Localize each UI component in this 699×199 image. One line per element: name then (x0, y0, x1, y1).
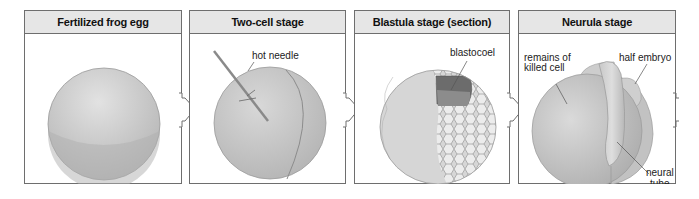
panel-title: Neurula stage (519, 11, 675, 34)
panel-title: Fertilized frog egg (25, 11, 181, 34)
label-hot-needle: hot needle (252, 50, 299, 61)
panel-title: Blastula stage (section) (355, 11, 509, 34)
arrow-right-icon (672, 92, 682, 128)
panel-fertilized-egg: Fertilized frog egg (24, 10, 182, 184)
two-cell-illustration: hot needle (190, 34, 345, 184)
panel-blastula-stage: Blastula stage (section) blastocoel (354, 10, 510, 184)
label-blastocoel: blastocoel (450, 47, 495, 58)
label-tube: tube (650, 178, 670, 184)
neurula-illustration: remains of killed cell half embryo neura… (519, 34, 675, 184)
label-killed-cell: killed cell (524, 62, 565, 73)
panel-neurula-stage: Neurula stage remains of killed (518, 10, 676, 184)
panel-two-cell-stage: Two-cell stage hot needle (189, 10, 346, 184)
label-neural: neural (646, 167, 674, 178)
fertilized-egg-illustration (25, 34, 181, 184)
panel-title: Two-cell stage (190, 11, 345, 34)
label-half-embryo: half embryo (619, 52, 672, 63)
blastula-section-illustration: blastocoel (355, 34, 509, 184)
